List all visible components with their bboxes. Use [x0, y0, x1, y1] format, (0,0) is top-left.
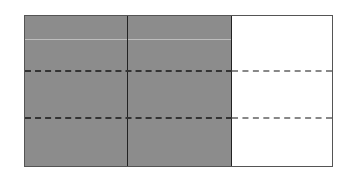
column-divider-1	[127, 16, 128, 166]
faint-line	[25, 39, 232, 40]
column-divider-2	[231, 16, 232, 166]
fraction-rectangle	[24, 15, 333, 167]
